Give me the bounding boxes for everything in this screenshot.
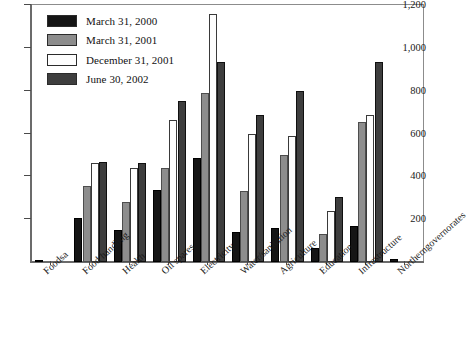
series-2-swatch [47,54,77,66]
bar [35,260,43,262]
bar [74,218,82,262]
bar [169,120,177,262]
bar [319,234,327,262]
bar [256,115,264,262]
legend-item-3: June 30, 2002 [47,71,197,88]
bar [288,136,296,262]
bar [280,155,288,262]
bar [350,226,358,262]
bar [248,134,256,263]
bar [201,93,209,262]
legend-label-3: June 30, 2002 [86,73,149,85]
bar [130,168,138,262]
legend-label-1: March 31, 2001 [86,34,157,46]
bar [153,190,161,262]
series-0-swatch [47,15,77,27]
bar [366,115,374,262]
series-1-swatch [47,34,77,46]
bar [217,62,225,262]
legend-label-2: December 31, 2001 [86,54,174,66]
chart-legend: March 31, 2000 March 31, 2001 December 3… [47,12,197,90]
bar [209,14,217,262]
series-3-swatch [47,73,77,85]
bar [296,91,304,262]
bar [240,191,248,262]
bar [358,122,366,262]
bar [83,186,91,262]
legend-item-0: March 31, 2000 [47,12,197,29]
bar [390,259,398,262]
legend-item-2: December 31, 2001 [47,51,197,68]
bar [91,163,99,262]
bar [375,62,383,262]
legend-label-0: March 31, 2000 [86,15,157,27]
bar [161,168,169,262]
bar [178,101,186,262]
bar [138,163,146,262]
legend-item-1: March 31, 2001 [47,32,197,49]
